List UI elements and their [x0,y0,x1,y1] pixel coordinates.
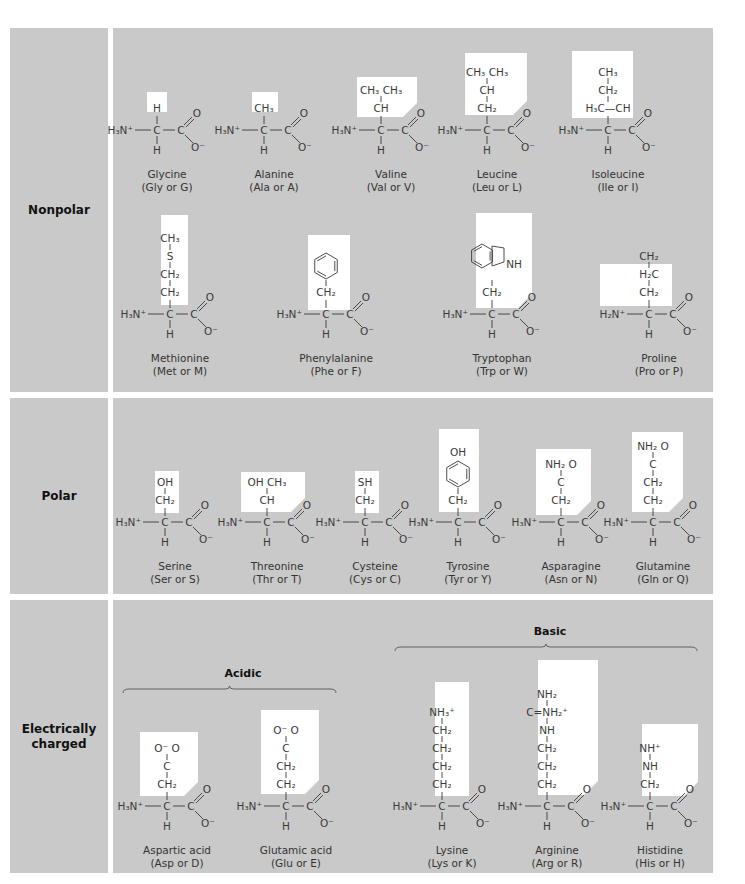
svg-text:C: C [462,800,469,812]
svg-text:H: H [263,536,271,548]
svg-text:CH₂: CH₂ [160,286,179,298]
svg-text:O⁻: O⁻ [521,141,535,153]
amino-acid-label: Glutamic acid(Glu or E) [241,844,351,870]
amino-acid-alanine: H₃N⁺CCOO⁻HCH₃ [214,92,311,156]
svg-text:H: H [322,328,330,340]
svg-text:O: O [303,499,311,511]
svg-text:C: C [557,516,564,528]
amino-acid-label: Tryptophan(Trp or W) [447,352,557,378]
amine-group: H₃N⁺ [442,308,468,320]
amino-acid-name: Proline [604,352,714,365]
svg-text:O: O [322,783,330,795]
svg-text:C: C [287,516,294,528]
svg-text:CH₃: CH₃ [160,232,179,244]
svg-text:C=NH₂⁺: C=NH₂⁺ [526,706,568,718]
amino-acid-abbreviation: (Arg or R) [502,857,612,870]
svg-text:C: C [604,124,611,136]
amine-group: H₃N⁺ [408,516,434,528]
amine-group: H₃N⁺ [558,124,584,136]
svg-text:NH₂ O: NH₂ O [637,440,669,452]
svg-text:CH₂: CH₂ [643,494,662,506]
svg-text:O⁻: O⁻ [191,141,205,153]
svg-text:CH₃: CH₃ [254,102,273,114]
svg-text:C: C [645,308,652,320]
amine-group: H₃N⁺ [120,308,146,320]
amino-acid-glutamic-acid: H₃N⁺CCOO⁻HCH₂CH₂CO⁻ O [236,710,333,832]
svg-text:H: H [361,536,369,548]
svg-text:O: O [206,291,214,303]
svg-text:CH₂: CH₂ [551,494,570,506]
svg-text:CH₂: CH₂ [276,778,295,790]
svg-text:CH₂: CH₂ [598,84,617,96]
svg-text:CH₂: CH₂ [355,494,374,506]
svg-text:H: H [557,536,565,548]
svg-text:CH₂: CH₂ [157,778,176,790]
amino-acid-label: Lysine(Lys or K) [397,844,507,870]
svg-text:SH: SH [358,476,373,488]
svg-text:CH₂: CH₂ [537,742,556,754]
svg-text:CH₃ CH₃: CH₃ CH₃ [360,84,402,96]
amino-acid-name: Glutamine [608,560,718,573]
svg-text:O: O [597,499,605,511]
svg-text:CH₃: CH₃ [598,66,617,78]
svg-text:CH₂: CH₂ [160,268,179,280]
amino-acid-label: Methionine(Met or M) [125,352,235,378]
svg-text:CH: CH [373,102,388,114]
svg-text:CH₂: CH₂ [432,760,451,772]
amino-acid-name: Threonine [222,560,332,573]
amine-group: H₃N⁺ [214,124,240,136]
svg-text:O: O [201,499,209,511]
amino-acid-abbreviation: (Tyr or Y) [413,573,523,586]
amino-acid-name: Glycine [112,168,222,181]
svg-text:O⁻: O⁻ [526,325,540,337]
amino-acid-label: Proline(Pro or P) [604,352,714,378]
svg-text:CH₂: CH₂ [640,778,659,790]
svg-text:C: C [543,800,550,812]
amino-acid-name: Glutamic acid [241,844,351,857]
amino-acid-label: Glutamine(Gln or Q) [608,560,718,586]
svg-text:H: H [377,144,385,156]
amine-group: H₃N⁺ [331,124,357,136]
svg-text:H: H [645,328,653,340]
svg-text:O⁻ O: O⁻ O [273,724,298,736]
svg-text:H: H [438,820,446,832]
svg-text:OH: OH [157,476,173,488]
svg-text:CH₂: CH₂ [477,102,496,114]
structures-canvas: H₃N⁺CCOO⁻HHH₃N⁺CCOO⁻HCH₃H₃N⁺CCOO⁻HCHCH₃ … [0,0,745,884]
svg-text:C: C [322,308,329,320]
svg-text:C: C [557,476,564,488]
svg-text:O⁻: O⁻ [204,325,218,337]
amine-group: H₃N⁺ [117,800,143,812]
svg-text:O: O [362,291,370,303]
amino-acid-abbreviation: (Glu or E) [241,857,351,870]
svg-text:O⁻: O⁻ [684,817,698,829]
amino-acid-name: Aspartic acid [122,844,232,857]
svg-text:C: C [567,800,574,812]
svg-text:CH₂: CH₂ [432,742,451,754]
svg-text:C: C [478,516,485,528]
amine-group: H₃N⁺ [107,124,133,136]
amino-acid-name: Tryptophan [447,352,557,365]
svg-text:C: C [163,760,170,772]
svg-text:O⁻: O⁻ [199,533,213,545]
svg-text:C: C [153,124,160,136]
amine-group: H₃N⁺ [276,308,302,320]
svg-text:OH: OH [450,446,466,458]
amino-acid-abbreviation: (Thr or T) [222,573,332,586]
amino-acid-name: Histidine [605,844,715,857]
svg-text:C: C [282,742,289,754]
svg-text:OH CH₃: OH CH₃ [248,476,287,488]
svg-text:CH₂: CH₂ [537,760,556,772]
amine-group: H₂N⁺ [599,308,625,320]
amine-group: H₃N⁺ [511,516,537,528]
svg-text:C: C [306,800,313,812]
amino-acid-tryptophan: H₃N⁺CCOO⁻HCH₂NH [442,213,539,340]
amino-acid-label: Leucine(Leu or L) [442,168,552,194]
svg-text:H: H [166,328,174,340]
svg-text:H: H [163,820,171,832]
amino-acid-methionine: H₃N⁺CCOO⁻HCH₂CH₂SCH₃ [120,215,217,340]
svg-text:O⁻: O⁻ [642,141,656,153]
amino-acid-name: Lysine [397,844,507,857]
svg-text:O⁻: O⁻ [581,817,595,829]
svg-text:C: C [185,516,192,528]
